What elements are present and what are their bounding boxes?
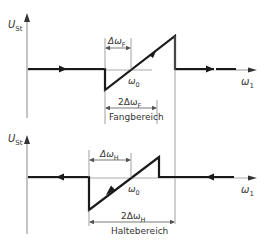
pll-range-diagram: USt ω1 ω0 ΔωF 2ΔωF Fangbereich USt ω1 (0, 0, 266, 248)
range-name-label: Haltebereich (111, 226, 168, 236)
hold-range-diagram: USt ω1 ω0 ΔωH 2ΔωH Haltebereich (8, 133, 257, 236)
range-name-label: Fangbereich (109, 112, 164, 122)
y-axis-label: USt (8, 19, 23, 33)
x-axis-arrow-icon (248, 68, 257, 73)
direction-arrow-icon (59, 66, 67, 73)
capture-range-diagram: USt ω1 ω0 ΔωF 2ΔωF Fangbereich (8, 13, 257, 124)
direction-arrow-icon (56, 174, 64, 181)
direction-arrow-icon (206, 66, 214, 73)
x-axis-label: ω1 (241, 76, 254, 90)
center-frequency-label: ω0 (128, 184, 140, 197)
x-axis-arrow-icon (248, 176, 257, 181)
y-axis-label: USt (8, 133, 23, 147)
y-axis-arrow-icon (24, 13, 30, 22)
direction-arrow-icon (206, 174, 214, 181)
y-axis-arrow-icon (24, 135, 30, 144)
delta-label: ΔωF (107, 36, 126, 49)
x-axis-label: ω1 (241, 184, 254, 198)
center-frequency-label: ω0 (128, 76, 140, 89)
